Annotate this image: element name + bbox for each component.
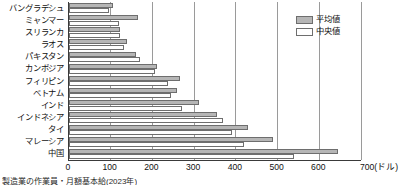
bar-median xyxy=(69,118,223,123)
bar-median xyxy=(69,33,120,38)
category-label: ラオス xyxy=(41,40,64,49)
horizontal-bar-chart: バングラデシュミャンマースリランカラオスパキスタンカンボジアフィリピンベトナムイ… xyxy=(0,0,411,185)
bar-row xyxy=(69,75,361,87)
bar-row xyxy=(69,148,361,160)
legend-item-mean: 平均値 xyxy=(296,14,360,25)
bar-row xyxy=(69,51,361,63)
chart-legend: 平均値 中央値 xyxy=(296,14,360,38)
x-axis-ticks: 0100200300400500600 xyxy=(68,161,360,175)
x-tick-label: 300 xyxy=(186,162,200,172)
category-label: バングラデシュ xyxy=(9,4,64,13)
bar-mean xyxy=(69,3,113,8)
bar-row xyxy=(69,124,361,136)
bar-row xyxy=(69,111,361,123)
x-tick-label: 500 xyxy=(269,162,283,172)
bar-mean xyxy=(69,15,138,20)
bar-median xyxy=(69,57,140,62)
bar-mean xyxy=(69,125,248,130)
bar-row xyxy=(69,136,361,148)
category-label: スリランカ xyxy=(25,28,64,37)
legend-label-mean: 平均値 xyxy=(316,15,340,24)
bar-mean xyxy=(69,64,157,69)
category-label: フィリピン xyxy=(25,77,64,86)
bar-row xyxy=(69,87,361,99)
bar-mean xyxy=(69,27,120,32)
bar-median xyxy=(69,45,124,50)
category-label: インド xyxy=(41,101,64,110)
category-label: パキスタン xyxy=(25,52,64,61)
legend-label-median: 中央値 xyxy=(316,27,340,36)
bar-median xyxy=(69,154,294,159)
bar-mean xyxy=(69,112,217,117)
x-tick-label: 200 xyxy=(144,162,158,172)
category-label: タイ xyxy=(48,125,64,134)
bar-median xyxy=(69,8,109,13)
category-label: ミャンマー xyxy=(25,16,64,25)
category-label: カンボジア xyxy=(25,64,64,73)
bar-row xyxy=(69,2,361,14)
chart-footnote: 製造業の作業員・月額基本給(2023年) xyxy=(2,177,137,185)
x-axis-unit-label: 700(ドル) xyxy=(360,162,398,172)
category-label: 中国 xyxy=(48,149,64,158)
bar-mean xyxy=(69,76,180,81)
bar-row xyxy=(69,38,361,50)
x-tick-label: 600 xyxy=(311,162,325,172)
bar-row xyxy=(69,63,361,75)
bar-median xyxy=(69,106,182,111)
x-tick-label: 0 xyxy=(66,162,71,172)
legend-swatch-mean-icon xyxy=(296,16,313,24)
bar-mean xyxy=(69,149,338,154)
category-label: インドネシア xyxy=(17,113,64,122)
category-axis-labels: バングラデシュミャンマースリランカラオスパキスタンカンボジアフィリピンベトナムイ… xyxy=(0,2,66,160)
bar-median xyxy=(69,69,155,74)
category-label: マレーシア xyxy=(25,137,64,146)
bar-median xyxy=(69,21,119,26)
bar-mean xyxy=(69,88,177,93)
bar-mean xyxy=(69,52,136,57)
bar-row xyxy=(69,99,361,111)
bar-mean xyxy=(69,39,127,44)
bar-median xyxy=(69,130,232,135)
bar-median xyxy=(69,93,171,98)
bar-median xyxy=(69,142,244,147)
x-tick-label: 100 xyxy=(103,162,117,172)
legend-item-median: 中央値 xyxy=(296,26,360,37)
bar-mean xyxy=(69,137,273,142)
bar-median xyxy=(69,81,168,86)
bar-mean xyxy=(69,100,199,105)
category-label: ベトナム xyxy=(33,89,64,98)
x-tick-label: 400 xyxy=(228,162,242,172)
legend-swatch-median-icon xyxy=(296,28,313,36)
